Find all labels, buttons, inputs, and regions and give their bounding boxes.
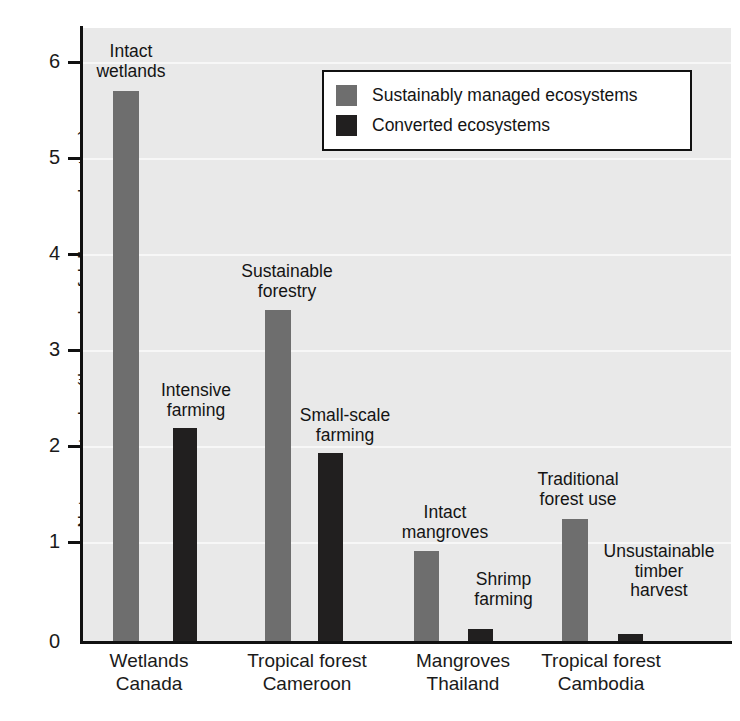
y-tick-label-4: 4	[18, 242, 60, 265]
legend-label-converted: Converted ecosystems	[372, 115, 550, 136]
y-tick-3	[68, 349, 82, 352]
bar-mangroves-thailand-converted[interactable]	[468, 629, 493, 641]
x-group-label-mangroves-thailand: Mangroves Thailand	[389, 650, 537, 696]
annotation-intact-wetlands: Intact wetlands	[71, 42, 191, 81]
gridline	[83, 350, 731, 352]
legend-item-converted[interactable]: Converted ecosystems	[336, 110, 680, 140]
y-tick-5	[68, 157, 82, 160]
y-tick-label-1: 1	[18, 530, 60, 553]
legend-swatch-icon-converted	[336, 115, 357, 136]
y-tick-label-2: 2	[18, 434, 60, 457]
y-tick-4	[68, 253, 82, 256]
legend: Sustainably managed ecosystems Converted…	[322, 70, 692, 151]
annotation-traditional-forest-use: Traditional forest use	[511, 470, 645, 509]
y-tick-label-6: 6	[18, 50, 60, 73]
chart-page: Net present value (thousands of dollars …	[0, 0, 740, 721]
x-axis-line	[80, 641, 732, 644]
legend-swatch-icon-sustainable	[336, 85, 357, 106]
annotation-intensive-farming: Intensive farming	[135, 381, 257, 420]
gridline	[83, 158, 731, 160]
bar-tropical-forest-cambodia-converted[interactable]	[618, 634, 643, 641]
annotation-sustainable-forestry: Sustainable forestry	[219, 262, 355, 301]
annotation-small-scale-farming: Small-scale farming	[283, 406, 407, 445]
y-tick-1	[68, 541, 82, 544]
y-axis-line	[80, 26, 83, 643]
legend-label-sustainable: Sustainably managed ecosystems	[372, 85, 638, 106]
legend-item-sustainable[interactable]: Sustainably managed ecosystems	[336, 80, 680, 110]
gridline	[83, 254, 731, 256]
y-tick-2	[68, 445, 82, 448]
bar-tropical-forest-cambodia-sustainable[interactable]	[562, 519, 588, 641]
bar-tropical-forest-cameroon-converted[interactable]	[318, 453, 343, 641]
y-tick-label-0: 0	[18, 630, 60, 653]
x-group-label-wetlands-canada: Wetlands Canada	[74, 650, 224, 696]
bar-tropical-forest-cameroon-sustainable[interactable]	[265, 310, 291, 641]
x-group-label-tropical-forest-cambodia: Tropical forest Cambodia	[516, 650, 686, 696]
y-tick-label-5: 5	[18, 146, 60, 169]
x-group-label-tropical-forest-cameroon: Tropical forest Cameroon	[222, 650, 392, 696]
bar-mangroves-thailand-sustainable[interactable]	[414, 551, 439, 641]
annotation-shrimp-farming: Shrimp farming	[450, 570, 557, 609]
bar-wetlands-canada-sustainable[interactable]	[113, 91, 139, 641]
bar-wetlands-canada-converted[interactable]	[173, 428, 197, 641]
annotation-unsustainable-timber-harvest: Unsustainable timber harvest	[586, 542, 732, 601]
y-tick-label-3: 3	[18, 338, 60, 361]
annotation-intact-mangroves: Intact mangroves	[386, 503, 504, 542]
